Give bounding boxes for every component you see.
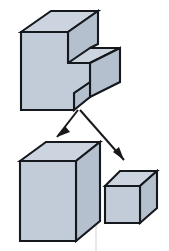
- diagram-root: [0, 0, 169, 251]
- notched-block: [21, 11, 120, 110]
- small-box-front-face: [105, 186, 140, 223]
- large-box-front-face: [20, 161, 76, 241]
- solid-decomposition-diagram: [0, 0, 169, 251]
- large-box: [20, 142, 100, 241]
- small-box: [105, 171, 157, 223]
- arrow-to-large-box: [57, 110, 78, 137]
